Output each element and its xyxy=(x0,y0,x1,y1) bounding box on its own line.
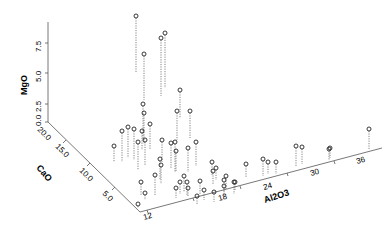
data-point xyxy=(244,162,248,166)
data-point xyxy=(174,149,178,153)
data-point xyxy=(186,146,190,150)
data-point xyxy=(178,180,182,184)
data-point xyxy=(148,122,152,126)
data-point xyxy=(173,140,177,144)
data-point xyxy=(188,109,192,113)
data-point xyxy=(159,36,163,40)
data-point xyxy=(274,160,278,164)
al2o3-tick-24: 24 xyxy=(262,181,273,192)
cao-tick-15: 15.0 xyxy=(54,142,72,160)
data-point xyxy=(222,178,226,182)
al2o3-tick-18: 18 xyxy=(217,192,228,203)
scatter-3d-plot: 0.0 2.5 5.0 7.5 MgO 20.0 15.0 10.0 5.0 C… xyxy=(0,0,388,226)
data-point xyxy=(182,174,186,178)
data-point xyxy=(158,157,162,161)
data-point xyxy=(266,160,270,164)
data-point xyxy=(142,52,146,56)
data-point xyxy=(175,109,179,113)
data-point xyxy=(143,191,147,195)
cao-axis-line xyxy=(48,122,140,212)
data-point xyxy=(141,102,145,106)
cao-tick-5: 5.0 xyxy=(101,189,116,204)
data-point xyxy=(186,186,190,190)
data-point xyxy=(143,138,147,142)
data-point xyxy=(294,144,298,148)
mgo-axis-title: MgO xyxy=(19,75,29,95)
data-point xyxy=(126,125,130,129)
data-point xyxy=(163,31,167,35)
data-point xyxy=(300,145,304,149)
data-point xyxy=(174,186,178,190)
data-point xyxy=(140,129,144,133)
data-point xyxy=(185,180,189,184)
data-point xyxy=(134,14,138,18)
data-point xyxy=(194,140,198,144)
data-point xyxy=(142,111,146,115)
data-point xyxy=(139,180,143,184)
mgo-ticks: 0.0 2.5 5.0 7.5 xyxy=(34,40,48,126)
data-point xyxy=(261,157,265,161)
data-point xyxy=(160,138,164,142)
data-points xyxy=(112,14,371,208)
cao-axis-title: CaO xyxy=(34,163,54,184)
data-point xyxy=(153,173,157,177)
data-point xyxy=(328,146,332,150)
data-point xyxy=(367,127,371,131)
data-point xyxy=(224,174,228,178)
data-point xyxy=(159,163,163,167)
data-point xyxy=(120,129,124,133)
al2o3-tick-36: 36 xyxy=(355,155,366,166)
cao-ticks: 20.0 15.0 10.0 5.0 xyxy=(36,125,116,204)
data-point xyxy=(132,127,136,131)
data-point xyxy=(210,160,214,164)
mgo-tick-3: 7.5 xyxy=(34,40,43,52)
al2o3-tick-12: 12 xyxy=(142,211,153,222)
cao-tick-20: 20.0 xyxy=(36,125,54,143)
mgo-tick-1: 2.5 xyxy=(34,100,43,112)
data-point xyxy=(169,141,173,145)
al2o3-ticks: 12 18 24 30 36 xyxy=(142,155,366,222)
cao-tick-10: 10.0 xyxy=(78,166,96,184)
data-point xyxy=(136,140,140,144)
data-point xyxy=(112,144,116,148)
data-point xyxy=(198,179,202,183)
data-point xyxy=(136,202,140,206)
data-point xyxy=(178,88,182,92)
data-point xyxy=(202,188,206,192)
mgo-tick-2: 5.0 xyxy=(34,70,43,82)
al2o3-tick-30: 30 xyxy=(309,167,320,178)
data-point xyxy=(195,194,199,198)
data-point xyxy=(214,166,218,170)
